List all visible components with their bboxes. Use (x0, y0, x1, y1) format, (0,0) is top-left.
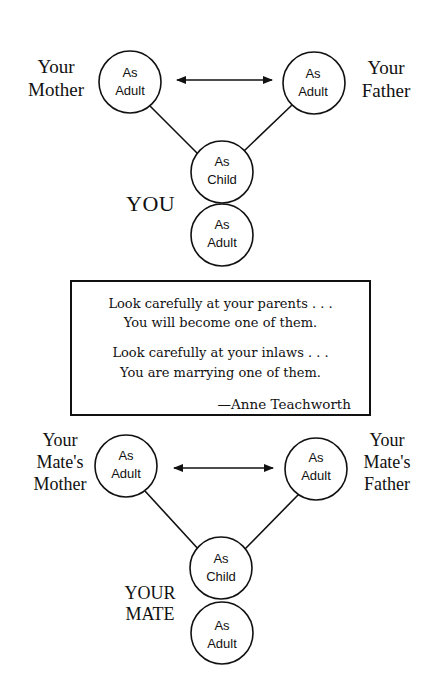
label-line: Mate's (355, 452, 419, 474)
label-your-mother: Your Mother (26, 55, 86, 101)
bottom-adult-node-text-2: Adult (207, 636, 237, 651)
label-you: YOU (126, 191, 175, 217)
bottom-mother-node-text: As (118, 448, 134, 463)
bottom-child-node-text: As (213, 551, 229, 566)
label-line: Mother (26, 78, 86, 101)
label-your-mate: YOUR MATE (120, 583, 180, 624)
label-line: MATE (120, 604, 180, 625)
bottom-connector-mother-child (145, 491, 200, 551)
bottom-child-node (190, 537, 252, 599)
bottom-father-node-text-2: Adult (301, 468, 331, 483)
quote-line-1: Look carefully at your parents . . . (72, 296, 369, 311)
label-line: YOUR (120, 583, 180, 604)
top-connector-father-child (244, 105, 292, 151)
label-line: Your (355, 430, 419, 452)
quote-line-4: You are marrying one of them. (72, 365, 369, 380)
top-child-node-text-2: Child (207, 172, 237, 187)
label-line: Mother (28, 474, 92, 496)
label-line: Your (26, 55, 86, 78)
bottom-child-node-text-2: Child (206, 569, 236, 584)
top-father-node-text: As (305, 66, 321, 81)
label-your-mates-father: Your Mate's Father (355, 430, 419, 496)
top-mother-node (99, 51, 161, 113)
bottom-adult-node-text: As (214, 618, 230, 633)
label-line: Mate's (28, 452, 92, 474)
label-line: Your (28, 430, 92, 452)
bottom-adult-node (191, 602, 253, 664)
bottom-father-node-text: As (308, 450, 324, 465)
label-line: Your (356, 56, 416, 79)
top-father-node-text-2: Adult (298, 84, 328, 99)
label-line: Father (356, 79, 416, 102)
quote-box: Look carefully at your parents . . . You… (70, 280, 371, 416)
top-mother-node-text: As (122, 65, 138, 80)
top-mother-node-text-2: Adult (115, 83, 145, 98)
top-father-node (283, 52, 345, 114)
label-your-father: Your Father (356, 56, 416, 102)
label-line: Father (355, 474, 419, 496)
quote-author: —Anne Teachworth (218, 396, 351, 412)
top-connector-mother-child (150, 106, 198, 154)
bottom-connector-father-child (243, 494, 299, 551)
label-your-mates-mother: Your Mate's Mother (28, 430, 92, 496)
top-adult-node-text: As (214, 217, 230, 232)
bottom-mother-node-text-2: Adult (111, 466, 141, 481)
quote-line-3: Look carefully at your inlaws . . . (72, 345, 369, 360)
top-child-node-text: As (214, 154, 230, 169)
top-adult-node-text-2: Adult (207, 235, 237, 250)
quote-line-2: You will become one of them. (72, 315, 369, 330)
